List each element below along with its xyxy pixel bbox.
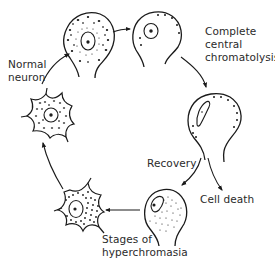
cycle-curve-right: [184, 63, 189, 72]
neuron-stage-1: [64, 13, 114, 78]
label-line: Stages of: [102, 233, 188, 246]
neuron-stage-6: [21, 88, 74, 142]
label-cell-death: Cell death: [200, 193, 254, 206]
label-line: Recovery: [147, 157, 197, 170]
neuron-stage-2: [133, 12, 182, 67]
label-recovery: Recovery: [147, 157, 197, 170]
label-normal-neuron: Normal neuron: [8, 58, 47, 84]
label-line: Normal: [8, 58, 47, 71]
label-line: Complete: [205, 25, 275, 38]
label-line: chromatolysis: [205, 51, 275, 64]
arrow-stage5-to-stage6: [43, 143, 63, 189]
neuron-stage-3: [188, 94, 241, 162]
arrow-stage3-to-cell-death: [208, 158, 222, 190]
arrow-stage2-to-stage3: [181, 57, 206, 87]
label-line: central: [205, 38, 275, 51]
label-line: hyperchromasia: [102, 246, 188, 259]
label-line: neuron: [8, 71, 47, 84]
label-stages-of-hyperchromasia: Stages of hyperchromasia: [102, 233, 188, 259]
arrow-stage1-to-stage2: [113, 29, 130, 32]
label-line: Cell death: [200, 193, 254, 206]
label-complete-central-chromatolysis: Complete central chromatolysis: [205, 25, 275, 64]
